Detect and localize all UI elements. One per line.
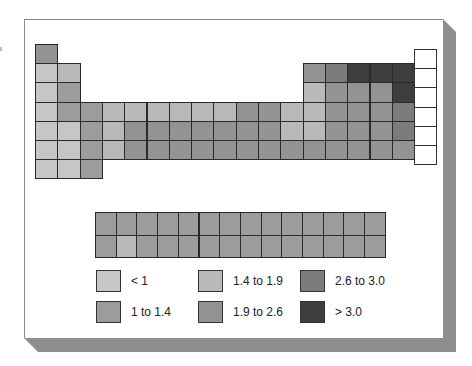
element-cell [147, 121, 170, 141]
element-cell [80, 121, 103, 141]
element-cell [236, 121, 259, 141]
f-block-cell [136, 235, 158, 259]
f-block-cell [281, 235, 303, 259]
f-block-cell [116, 235, 138, 259]
f-block-cell [219, 235, 241, 259]
f-block-cell [95, 212, 117, 236]
element-cell [236, 102, 259, 122]
element-cell [169, 140, 192, 160]
f-block-cell [178, 212, 200, 236]
legend-label: < 1 [131, 274, 148, 288]
f-block-cell [364, 212, 386, 236]
element-cell [370, 140, 393, 160]
element-cell [392, 102, 415, 122]
element-cell [124, 140, 147, 160]
element-cell [102, 121, 125, 141]
element-cell [124, 121, 147, 141]
f-block-cell [343, 212, 365, 236]
element-cell [236, 140, 259, 160]
element-cell [35, 82, 58, 102]
element-cell [57, 63, 80, 83]
element-cell [280, 121, 303, 141]
element-cell [57, 102, 80, 122]
element-cell [325, 102, 348, 122]
f-block-cell [343, 235, 365, 259]
f-block-cell [116, 212, 138, 236]
legend-swatch [96, 270, 121, 292]
f-block-cell [323, 212, 345, 236]
element-cell [35, 102, 58, 122]
element-cell [169, 102, 192, 122]
element-cell [303, 63, 326, 83]
legend-item: 1.4 to 1.9 [198, 270, 283, 292]
element-cell [392, 121, 415, 141]
element-cell [347, 102, 370, 122]
legend-item: < 1 [96, 270, 148, 292]
element-cell [392, 82, 415, 102]
legend-item: > 3.0 [300, 301, 362, 323]
element-cell [258, 140, 281, 160]
element-cell [303, 82, 326, 102]
element-cell [280, 102, 303, 122]
legend-label: > 3.0 [335, 305, 362, 319]
element-cell [258, 102, 281, 122]
f-block-cell [199, 212, 221, 236]
legend-swatch [96, 301, 121, 323]
element-cell [258, 121, 281, 141]
f-block-cell [136, 212, 158, 236]
element-cell [303, 140, 326, 160]
element-cell [347, 140, 370, 160]
element-cell [57, 140, 80, 160]
f-block-cell [178, 235, 200, 259]
element-cell [191, 121, 214, 141]
element-cell [370, 82, 393, 102]
element-cell [147, 102, 170, 122]
element-cell [213, 140, 236, 160]
legend-swatch [300, 301, 325, 323]
legend-label: 1.9 to 2.6 [233, 305, 283, 319]
element-cell [414, 49, 437, 69]
element-cell [303, 102, 326, 122]
element-cell [414, 107, 437, 127]
element-cell [80, 159, 103, 179]
legend-label: 1.4 to 1.9 [233, 274, 283, 288]
legend-swatch [198, 270, 223, 292]
element-cell [35, 140, 58, 160]
element-cell [414, 145, 437, 165]
element-cell [102, 140, 125, 160]
element-cell [303, 121, 326, 141]
element-cell [347, 63, 370, 83]
legend-label: 1 to 1.4 [131, 305, 171, 319]
element-cell [347, 121, 370, 141]
element-cell [325, 82, 348, 102]
element-cell [392, 63, 415, 83]
f-block-cell [302, 235, 324, 259]
element-cell [370, 63, 393, 83]
element-cell [147, 140, 170, 160]
element-cell [392, 140, 415, 160]
element-cell [35, 159, 58, 179]
f-block-cell [302, 212, 324, 236]
legend-label: 2.6 to 3.0 [335, 274, 385, 288]
f-block-cell [157, 212, 179, 236]
element-cell [80, 140, 103, 160]
f-block-cell [281, 212, 303, 236]
element-cell [325, 121, 348, 141]
f-block-cell [240, 212, 262, 236]
element-cell [414, 126, 437, 146]
f-block-cell [261, 235, 283, 259]
element-cell [325, 63, 348, 83]
f-block-cell [323, 235, 345, 259]
element-cell [57, 121, 80, 141]
element-cell [57, 82, 80, 102]
element-cell [35, 44, 58, 64]
element-cell [325, 140, 348, 160]
f-block-cell [261, 212, 283, 236]
element-cell [191, 102, 214, 122]
element-cell [80, 102, 103, 122]
f-block-cell [95, 235, 117, 259]
element-cell [35, 121, 58, 141]
element-cell [102, 102, 125, 122]
element-cell [370, 102, 393, 122]
element-cell [370, 121, 393, 141]
